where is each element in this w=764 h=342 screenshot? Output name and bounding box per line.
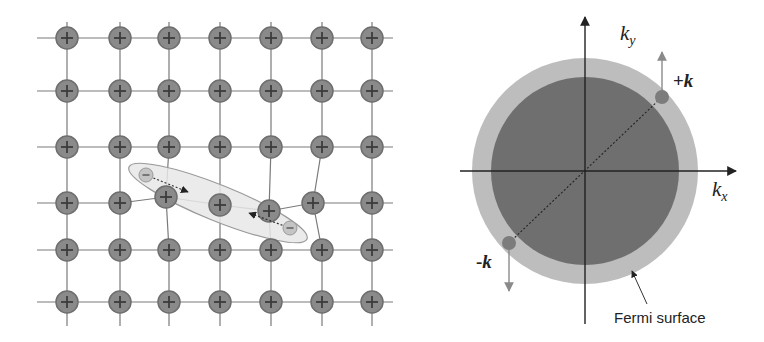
positive-ion-icon	[302, 192, 324, 214]
positive-ion-icon	[209, 194, 231, 216]
positive-ion-icon	[260, 239, 282, 261]
positive-ion-icon	[361, 136, 383, 158]
lattice-grid-lines	[37, 22, 393, 326]
positive-ion-icon	[209, 239, 231, 261]
positive-ion-icon	[56, 27, 78, 49]
positive-ion-icon	[158, 80, 180, 102]
positive-ion-icon	[109, 192, 131, 214]
lattice-column-line	[313, 22, 322, 326]
positive-ion-icon	[260, 80, 282, 102]
positive-ion-icon	[158, 136, 180, 158]
positive-ion-icon	[361, 192, 383, 214]
crystal-lattice-panel	[37, 22, 393, 326]
positive-ion-icon	[56, 239, 78, 261]
positive-ion-icon	[56, 80, 78, 102]
positive-ion-icon	[260, 136, 282, 158]
positive-ion-icon	[311, 136, 333, 158]
positive-ion-icon	[209, 80, 231, 102]
positive-ion-icon	[311, 27, 333, 49]
positive-ion-icon	[158, 239, 180, 261]
positive-ion-icon	[158, 291, 180, 313]
positive-ion-icon	[260, 291, 282, 313]
plus-k-electron-dot	[655, 90, 669, 104]
positive-ion-icon	[109, 27, 131, 49]
positive-ion-icon	[311, 239, 333, 261]
positive-ion-icon	[361, 27, 383, 49]
kx-axis-label: kx	[712, 177, 728, 204]
positive-ion-icon	[361, 291, 383, 313]
positive-ion-icon	[56, 136, 78, 158]
positive-ion-icon	[56, 291, 78, 313]
positive-ion-icon	[209, 291, 231, 313]
positive-ion-icon	[311, 80, 333, 102]
positive-ion-icon	[361, 80, 383, 102]
positive-ion-icon	[158, 27, 180, 49]
positive-ion-icon	[260, 27, 282, 49]
positive-ion-icon	[109, 291, 131, 313]
positive-ion-icon	[311, 291, 333, 313]
positive-ion-icon	[258, 200, 280, 222]
ky-axis-label: ky	[620, 21, 636, 48]
positive-ion-icon	[209, 136, 231, 158]
positive-ion-icon	[209, 27, 231, 49]
positive-ion-icon	[109, 136, 131, 158]
positive-ion-icon	[109, 239, 131, 261]
positive-ion-icon	[155, 186, 177, 208]
superconductivity-diagram: ky kx +k -k Fermi surface	[0, 0, 764, 342]
plus-k-label: +k	[673, 70, 694, 91]
positive-ion-icon	[109, 80, 131, 102]
fermi-surface-pointer-arrow	[632, 271, 647, 304]
fermi-surface-label: Fermi surface	[614, 309, 706, 326]
minus-k-electron-dot	[502, 236, 516, 250]
fermi-sphere-panel: ky kx +k -k Fermi surface	[460, 17, 736, 326]
positive-ion-icon	[56, 192, 78, 214]
positive-ion-icon	[361, 239, 383, 261]
minus-k-label: -k	[476, 251, 492, 272]
lattice-column-line	[269, 22, 271, 326]
